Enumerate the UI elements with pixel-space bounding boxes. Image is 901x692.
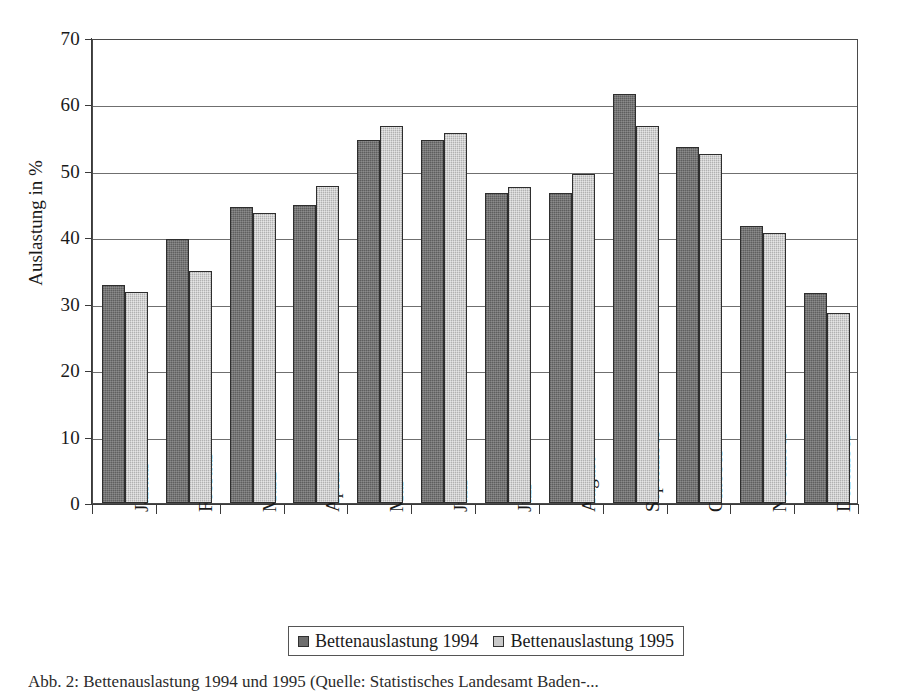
y-tick-label-60: 60 bbox=[18, 95, 80, 114]
gridline-60 bbox=[93, 106, 857, 107]
bar-januar-series1 bbox=[102, 285, 125, 503]
bar-oktober-series1 bbox=[676, 147, 699, 503]
legend-entry-2: Bettenauslastung 1995 bbox=[493, 632, 673, 650]
bar-september-series2 bbox=[636, 126, 659, 503]
bar-juni-series1 bbox=[421, 140, 444, 503]
y-tick-mark-40 bbox=[85, 238, 92, 239]
x-tick-mark-end bbox=[858, 505, 859, 514]
figure-caption: Abb. 2: Bettenauslastung 1994 und 1995 (… bbox=[28, 672, 888, 692]
x-tick-mark-august bbox=[539, 505, 540, 514]
bar-juli-series2 bbox=[508, 187, 531, 503]
y-axis-line bbox=[91, 38, 92, 505]
legend-label-1: Bettenauslastung 1994 bbox=[315, 632, 478, 650]
bar-mai-series1 bbox=[357, 140, 380, 503]
y-tick-mark-10 bbox=[85, 438, 92, 439]
bar-mai-series2 bbox=[380, 126, 403, 503]
y-tick-label-10: 10 bbox=[18, 428, 80, 447]
plot-area bbox=[92, 39, 858, 504]
legend-label-2: Bettenauslastung 1995 bbox=[510, 632, 673, 650]
bar-april-series1 bbox=[293, 205, 316, 503]
bar-april-series2 bbox=[316, 186, 339, 503]
bar-märz-series1 bbox=[230, 207, 253, 503]
bar-februar-series1 bbox=[166, 239, 189, 503]
bar-februar-series2 bbox=[189, 271, 212, 503]
x-tick-mark-februar bbox=[156, 505, 157, 514]
y-tick-label-70: 70 bbox=[18, 29, 80, 48]
x-tick-mark-oktober bbox=[667, 505, 668, 514]
bar-november-series2 bbox=[763, 233, 786, 503]
x-tick-mark-juni bbox=[411, 505, 412, 514]
bar-januar-series2 bbox=[125, 292, 148, 503]
legend-entry-1: Bettenauslastung 1994 bbox=[298, 632, 478, 650]
bar-juni-series2 bbox=[444, 133, 467, 503]
x-tick-mark-märz bbox=[220, 505, 221, 514]
bar-august-series2 bbox=[572, 174, 595, 503]
y-tick-mark-70 bbox=[85, 39, 92, 40]
bar-oktober-series2 bbox=[699, 154, 722, 503]
bar-dezember-series1 bbox=[804, 293, 827, 503]
gridline-50 bbox=[93, 173, 857, 174]
dark-gray-swatch bbox=[298, 636, 309, 647]
x-tick-mark-november bbox=[730, 505, 731, 514]
y-tick-label-20: 20 bbox=[18, 361, 80, 380]
x-tick-mark-mai bbox=[347, 505, 348, 514]
y-tick-label-0: 0 bbox=[18, 494, 80, 513]
y-tick-mark-20 bbox=[85, 371, 92, 372]
bar-august-series1 bbox=[549, 193, 572, 503]
chart-legend: Bettenauslastung 1994Bettenauslastung 19… bbox=[288, 626, 684, 656]
x-tick-mark-september bbox=[603, 505, 604, 514]
y-tick-mark-30 bbox=[85, 305, 92, 306]
bar-juli-series1 bbox=[485, 193, 508, 503]
bar-dezember-series2 bbox=[827, 313, 850, 503]
x-tick-mark-januar bbox=[92, 505, 93, 514]
x-tick-mark-juli bbox=[475, 505, 476, 514]
y-axis-title: Auslastung in % bbox=[25, 123, 47, 323]
y-tick-mark-0 bbox=[85, 504, 92, 505]
bar-september-series1 bbox=[613, 94, 636, 503]
y-tick-mark-50 bbox=[85, 172, 92, 173]
bar-november-series1 bbox=[740, 226, 763, 503]
x-tick-mark-dezember bbox=[794, 505, 795, 514]
light-gray-swatch bbox=[493, 636, 504, 647]
bar-märz-series2 bbox=[253, 213, 276, 503]
x-tick-mark-april bbox=[284, 505, 285, 514]
y-tick-mark-60 bbox=[85, 105, 92, 106]
